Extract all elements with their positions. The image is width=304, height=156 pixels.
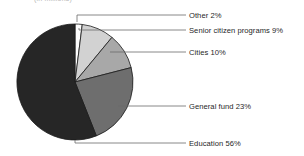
callout-label-education: Education 56%: [189, 139, 241, 148]
pie-chart-figure: (in millions) Other 2% Senior citizen pr…: [0, 0, 304, 156]
callout-label-senior-citizen-programs: Senior citizen programs 9%: [189, 26, 283, 35]
pie-chart-canvas: [0, 0, 304, 156]
leader-line-education: [75, 140, 186, 143]
callout-label-other: Other 2%: [189, 11, 221, 20]
callout-label-general-fund: General fund 23%: [189, 102, 251, 111]
leader-line-other: [77, 15, 186, 22]
callout-label-cities: Cities 10%: [189, 48, 226, 57]
